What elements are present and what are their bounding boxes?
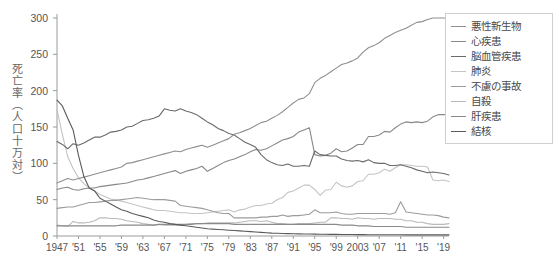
x-tick-label: '67	[155, 243, 173, 253]
x-tick-label: '51	[69, 243, 87, 253]
legend-item[interactable]: 不慮の事故	[451, 79, 548, 94]
x-tick-label: '63	[134, 243, 152, 253]
legend-item[interactable]: 心疾患	[451, 34, 548, 49]
x-tick-label: '91	[284, 243, 302, 253]
legend-item[interactable]: 悪性新生物	[451, 19, 548, 34]
legend-item-label: 心疾患	[471, 36, 501, 47]
legend-item[interactable]: 結核	[451, 124, 548, 139]
x-tick-label: '87	[263, 243, 281, 253]
x-tick-label: '19	[435, 243, 453, 253]
x-tick-label: '07	[370, 243, 388, 253]
legend-item-label: 不慮の事故	[471, 81, 521, 92]
legend-item[interactable]: 自殺	[451, 94, 548, 109]
x-tick-label: '75	[198, 243, 216, 253]
x-tick-label: '83	[241, 243, 259, 253]
legend-swatch-icon	[451, 41, 466, 42]
y-tick-label: 300	[14, 13, 48, 23]
x-tick-label: '55	[91, 243, 109, 253]
legend-swatch-icon	[451, 71, 466, 72]
x-tick-label: '95	[306, 243, 324, 253]
legend-swatch-icon	[451, 56, 466, 57]
legend-swatch-icon	[451, 131, 466, 132]
x-tick-label: 1947	[42, 243, 72, 253]
y-tick-label: 50	[14, 195, 48, 205]
legend-item-label: 結核	[471, 126, 491, 137]
series-line	[57, 218, 449, 227]
legend-item-label: 自殺	[471, 96, 491, 107]
series-line	[57, 197, 449, 217]
legend-swatch-icon	[451, 101, 466, 102]
x-tick-label: '71	[177, 243, 195, 253]
legend-item-label: 肝疾患	[471, 111, 501, 122]
series-line	[57, 110, 449, 214]
series-line	[57, 224, 449, 228]
legend-item-label: 脳血管疾患	[471, 51, 521, 62]
x-tick-label: '11	[392, 243, 410, 253]
y-tick-label: 250	[14, 49, 48, 59]
y-tick-label: 200	[14, 86, 48, 96]
legend-item[interactable]: 肝疾患	[451, 109, 548, 124]
chart-root: 死亡率（人口十万対） 悪性新生物心疾患脳血管疾患肺炎不慮の事故自殺肝疾患結核 0…	[0, 0, 559, 263]
y-tick-label: 0	[14, 231, 48, 241]
series-line	[57, 115, 449, 191]
x-tick-label: 2003	[343, 243, 373, 253]
series-line	[57, 109, 449, 175]
legend-item-label: 悪性新生物	[471, 21, 521, 32]
chart-legend: 悪性新生物心疾患脳血管疾患肺炎不慮の事故自殺肝疾患結核	[445, 13, 553, 144]
legend-swatch-icon	[451, 26, 466, 27]
series-line	[57, 18, 449, 183]
x-tick-label: '59	[112, 243, 130, 253]
legend-swatch-icon	[451, 116, 466, 117]
x-tick-label: '15	[413, 243, 431, 253]
legend-item-label: 肺炎	[471, 66, 491, 77]
legend-item[interactable]: 肺炎	[451, 64, 548, 79]
y-tick-label: 150	[14, 122, 48, 132]
legend-swatch-icon	[451, 86, 466, 87]
y-tick-label: 100	[14, 158, 48, 168]
x-tick-label: '79	[220, 243, 238, 253]
legend-item[interactable]: 脳血管疾患	[451, 49, 548, 64]
